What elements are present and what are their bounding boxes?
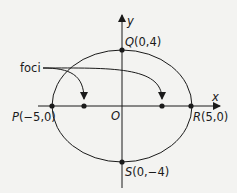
focus-left [81, 103, 86, 108]
point-q-label: Q(0,4) [125, 35, 161, 49]
point-q [119, 47, 124, 52]
origin-label: O [111, 109, 120, 123]
point-s-label: S(0,−4) [125, 165, 169, 179]
point-s [119, 159, 124, 164]
point-p [49, 103, 54, 108]
point-r [188, 103, 193, 108]
point-p-label: P(−5,0) [12, 110, 56, 124]
y-axis-label: y [126, 14, 134, 28]
ellipse-diagram: y x O foci Q(0,4) P(−5,0) R(5,0) S(0,−4) [0, 0, 237, 193]
x-axis-label: x [211, 90, 219, 104]
foci-pointer-left [43, 68, 84, 99]
focus-right [159, 103, 164, 108]
point-r-label: R(5,0) [193, 110, 228, 124]
foci-label: foci [20, 61, 41, 75]
foci-pointer-right [43, 68, 162, 99]
